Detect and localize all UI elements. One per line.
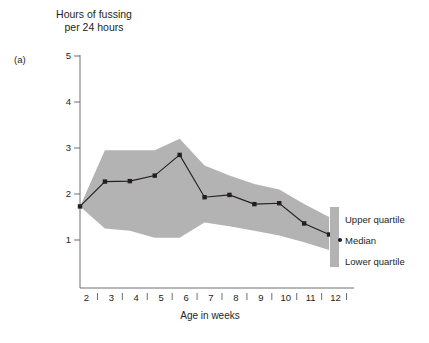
median-data-point xyxy=(302,221,306,225)
x-axis-tick-label: 2 xyxy=(77,292,95,303)
x-axis-tick-label: 7 xyxy=(202,292,220,303)
legend-median-dot xyxy=(338,238,342,242)
x-axis-tick-label: 5 xyxy=(152,292,170,303)
y-axis-tick-label: 4 xyxy=(55,96,71,107)
y-axis-tick-label: 1 xyxy=(55,234,71,245)
median-data-point xyxy=(153,173,157,177)
legend-label-upper-quartile: Upper quartile xyxy=(345,214,405,225)
x-axis-tick-label: 8 xyxy=(227,292,245,303)
x-axis-tick-label: 4 xyxy=(127,292,145,303)
quartile-band-shape xyxy=(80,139,329,250)
x-axis-tick-label: 11 xyxy=(302,292,320,303)
y-axis-tick-label: 2 xyxy=(55,188,71,199)
median-data-point xyxy=(177,153,181,157)
x-axis-tick-label: 12 xyxy=(327,292,345,303)
legend-band-swatch xyxy=(330,207,339,267)
median-data-point xyxy=(202,195,206,199)
legend-label-median: Median xyxy=(345,235,376,246)
x-axis-tick-label: 6 xyxy=(177,292,195,303)
legend-label-lower-quartile: Lower quartile xyxy=(345,256,405,267)
median-data-point xyxy=(227,193,231,197)
median-data-point xyxy=(252,202,256,206)
y-axis-tick-label: 5 xyxy=(55,50,71,61)
y-axis-tick-label: 3 xyxy=(55,142,71,153)
median-data-point xyxy=(128,179,132,183)
x-axis-tick-label: 3 xyxy=(102,292,120,303)
legend-marker xyxy=(330,207,342,267)
x-axis-tick-label: 9 xyxy=(252,292,270,303)
y-axis-ticks xyxy=(74,56,80,240)
median-data-point xyxy=(78,204,82,208)
fussing-hours-chart: Hours of fussingper 24 hours (a) 12345 2… xyxy=(0,0,429,343)
median-data-point xyxy=(277,201,281,205)
quartile-band xyxy=(80,139,329,250)
chart-x-axis-title: Age in weeks xyxy=(150,309,270,322)
x-axis-tick-label: 10 xyxy=(277,292,295,303)
median-data-point xyxy=(103,179,107,183)
